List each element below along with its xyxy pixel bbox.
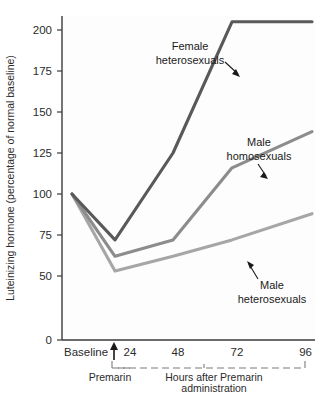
annotation-male-heterosexuals-line2: heterosexuals <box>238 293 307 305</box>
y-tick-label-0: 0 <box>46 334 52 346</box>
annotation-male-homosexuals-line1: Male <box>247 136 271 148</box>
x-caption-hours-line2: administration <box>181 382 247 393</box>
annotation-female-heterosexuals-line2: heterosexuals <box>156 54 225 66</box>
annotation-male-homosexuals-line2: homosexuals <box>227 150 292 162</box>
x-tick-label-baseline: Baseline <box>64 346 108 358</box>
x-tick-label-48: 48 <box>172 346 185 358</box>
premarin-bracket <box>112 361 132 368</box>
line-chart-svg: 200 175 150 125 100 75 50 0 Luteinizing … <box>0 0 323 393</box>
annotation-male-heterosexuals-line1: Male <box>260 279 284 291</box>
premarin-arrow-up-icon <box>110 342 118 360</box>
y-axis-title: Luteinizing hormone (percentage of norma… <box>4 55 16 301</box>
x-tick-label-24: 24 <box>124 346 137 358</box>
y-tick-label-50: 50 <box>39 270 52 282</box>
x-tick-label-96: 96 <box>299 346 312 358</box>
y-tick-label-75: 75 <box>39 229 52 241</box>
chart-figure: 200 175 150 125 100 75 50 0 Luteinizing … <box>0 0 323 393</box>
x-caption-premarin: Premarin <box>89 371 132 383</box>
y-tick-label-175: 175 <box>33 65 52 77</box>
annotation-female-heterosexuals-line1: Female <box>172 40 209 52</box>
x-tick-label-72: 72 <box>231 346 244 358</box>
y-tick-label-150: 150 <box>33 106 52 118</box>
hours-bracket <box>118 361 305 368</box>
y-tick-label-125: 125 <box>33 147 52 159</box>
y-tick-label-200: 200 <box>33 24 52 36</box>
y-tick-label-100: 100 <box>33 188 52 200</box>
